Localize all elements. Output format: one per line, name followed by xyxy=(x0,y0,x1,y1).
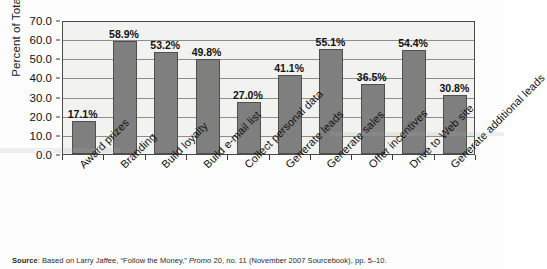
y-tick-mark xyxy=(56,135,60,136)
y-tick-label: 40.0 xyxy=(30,72,52,84)
y-tick-label: 30.0 xyxy=(30,92,52,104)
x-tick-mark xyxy=(351,155,352,160)
x-tick-mark xyxy=(145,155,146,160)
bar-value-label: 53.2% xyxy=(150,39,180,51)
y-tick-label: 10.0 xyxy=(30,130,52,142)
bar-value-label: 27.0% xyxy=(233,89,263,101)
y-tick-mark xyxy=(56,59,60,60)
x-tick-mark xyxy=(475,155,476,160)
y-tick-label: 60.0 xyxy=(30,34,52,46)
y-tick-mark xyxy=(56,97,60,98)
y-axis-tick-labels: 0.010.020.030.040.050.060.070.0 xyxy=(12,21,56,155)
y-tick-mark xyxy=(56,40,60,41)
bar-value-label: 17.1% xyxy=(68,108,98,120)
bar-value-label: 49.8% xyxy=(192,46,222,58)
source-label: Source xyxy=(12,256,38,265)
x-tick-mark xyxy=(310,155,311,160)
source-note: Source: Based on Larry Jaffee, “Follow t… xyxy=(12,256,387,265)
bar-value-label: 36.5% xyxy=(357,71,387,83)
bar-value-label: 30.8% xyxy=(439,82,469,94)
y-tick-mark xyxy=(56,21,60,22)
x-tick-mark xyxy=(103,155,104,160)
x-tick-mark xyxy=(62,155,63,160)
x-tick-mark xyxy=(269,155,270,160)
y-tick-mark xyxy=(56,155,60,156)
x-tick-mark xyxy=(227,155,228,160)
x-tick-mark xyxy=(392,155,393,160)
x-tick-mark xyxy=(434,155,435,160)
source-publication: Promo xyxy=(189,256,211,265)
y-tick-label: 50.0 xyxy=(30,53,52,65)
y-tick-mark xyxy=(56,78,60,79)
x-tick-mark xyxy=(186,155,187,160)
y-tick-label: 70.0 xyxy=(30,15,52,27)
bar-value-label: 55.1% xyxy=(316,36,346,48)
y-tick-label: 0.0 xyxy=(36,149,52,161)
bar-value-label: 41.1% xyxy=(274,62,304,74)
y-tick-mark xyxy=(56,116,60,117)
source-text-after: 20, no. 11 (November 2007 Sourcebook), p… xyxy=(211,256,386,265)
source-text-before: Based on Larry Jaffee, “Follow the Money… xyxy=(42,256,189,265)
bar xyxy=(196,59,220,154)
y-tick-label: 20.0 xyxy=(30,111,52,123)
bar-value-label: 58.9% xyxy=(109,28,139,40)
bar-value-label: 54.4% xyxy=(398,37,428,49)
